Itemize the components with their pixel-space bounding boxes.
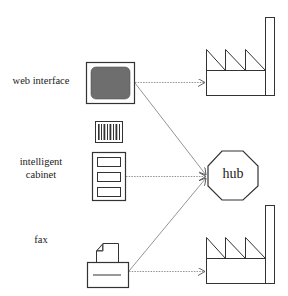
label-fax: fax	[8, 233, 74, 246]
barcode-icon	[96, 122, 123, 143]
fax-machine-icon	[88, 244, 129, 288]
arrow-fax-to-hub	[129, 178, 206, 271]
cabinet-icon	[93, 153, 126, 201]
label-intelligent: intelligent	[8, 155, 74, 168]
arrow-web-to-hub	[135, 83, 206, 175]
hub-label: hub	[207, 166, 259, 182]
factory-icon-top	[207, 18, 275, 96]
monitor-icon	[87, 63, 135, 104]
factory-icon-bottom	[207, 206, 275, 284]
connections	[126, 83, 206, 272]
label-cabinet: cabinet	[8, 168, 74, 181]
label-web-interface: web interface	[8, 74, 74, 87]
diagram-canvas	[0, 0, 288, 296]
